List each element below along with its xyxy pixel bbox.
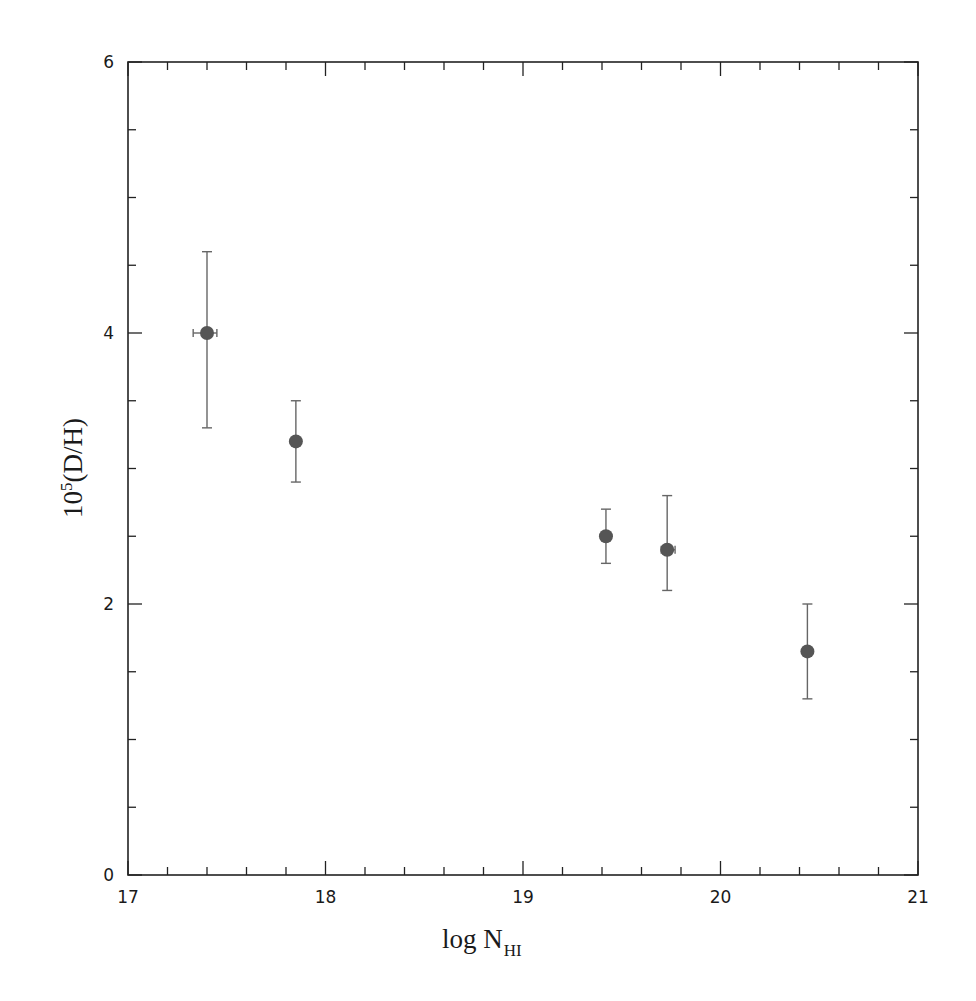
y-tick-label: 2 [103, 594, 114, 614]
data-point-marker [200, 326, 214, 340]
plot-frame [128, 62, 918, 875]
axis-ticks [128, 62, 918, 875]
plot-border [128, 62, 918, 875]
scatter-plot: 17181920210246 log NHI 105(D/H) [0, 0, 976, 1001]
data-point-marker [599, 529, 613, 543]
y-tick-label: 0 [103, 865, 114, 885]
chart-figure: 17181920210246 log NHI 105(D/H) [0, 0, 976, 1001]
x-tick-label: 20 [710, 887, 732, 907]
data-point-marker [800, 644, 814, 658]
x-axis-label: log NHI [442, 924, 522, 960]
data-point-marker [289, 434, 303, 448]
tick-labels: 17181920210246 [103, 52, 929, 907]
x-tick-label: 17 [117, 887, 139, 907]
x-tick-label: 21 [907, 887, 929, 907]
x-tick-label: 18 [315, 887, 337, 907]
y-tick-label: 6 [103, 52, 114, 72]
data-point-marker [660, 543, 674, 557]
error-bars [193, 252, 812, 699]
y-tick-label: 4 [103, 323, 114, 343]
x-tick-label: 19 [512, 887, 534, 907]
data-markers [200, 326, 814, 658]
y-axis-label: 105(D/H) [57, 418, 88, 518]
